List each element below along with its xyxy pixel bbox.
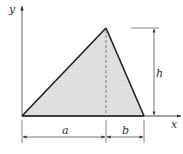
a-dimension-label: a — [62, 124, 69, 137]
triangle-diagram: y x h a b — [0, 0, 183, 154]
h-dimension-label: h — [156, 67, 163, 80]
y-axis-label: y — [8, 3, 16, 16]
b-dimension-label: b — [122, 124, 129, 137]
x-axis-label: x — [171, 118, 178, 131]
